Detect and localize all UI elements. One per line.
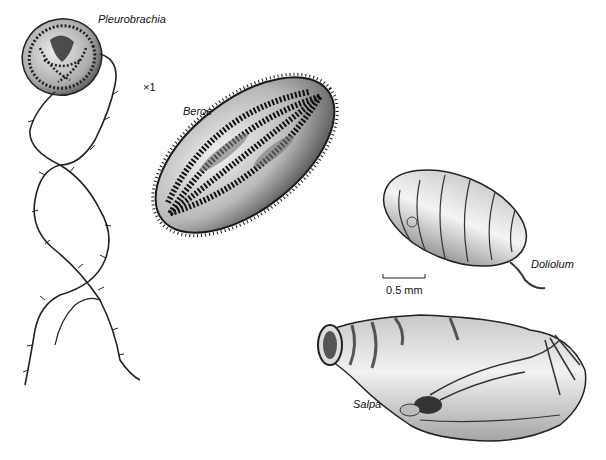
pleurobrachia-illustration <box>11 8 140 385</box>
scale-bar-label: 0.5 mm <box>386 284 423 296</box>
salpa-illustration <box>318 315 586 441</box>
illustration-layer <box>0 0 606 460</box>
label-beroe: Beroe <box>183 105 212 117</box>
doliolum-illustration <box>370 151 545 288</box>
figure-canvas: Pleurobrachia ×1 Beroe Doliolum 0.5 mm S… <box>0 0 606 460</box>
label-pleurobrachia: Pleurobrachia <box>98 13 166 25</box>
beroe-illustration <box>124 43 366 267</box>
magnification-label: ×1 <box>143 81 156 93</box>
label-salpa: Salpa <box>353 398 381 410</box>
label-doliolum: Doliolum <box>531 258 574 270</box>
scale-bar <box>383 274 425 278</box>
